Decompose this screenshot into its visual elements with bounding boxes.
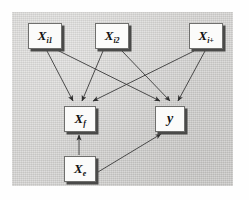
edge-xip-to-xf xyxy=(93,51,194,101)
node-xe-label: Xe xyxy=(74,160,86,177)
node-xe[interactable]: Xe xyxy=(64,156,96,182)
node-y-label: y xyxy=(167,110,173,127)
node-xi1-label: Xi1 xyxy=(38,27,52,44)
node-xip-label: Xi+ xyxy=(199,27,214,44)
edge-xip-to-y xyxy=(178,51,205,101)
node-xip[interactable]: Xi+ xyxy=(189,23,223,49)
path-diagram-figure: Xi1 Xi2 Xi+ Xf y Xe xyxy=(0,0,249,200)
node-xi2-label: Xi2 xyxy=(105,27,119,44)
node-xi2[interactable]: Xi2 xyxy=(95,23,129,49)
node-xi1[interactable]: Xi1 xyxy=(28,23,62,49)
node-xf[interactable]: Xf xyxy=(64,106,96,132)
edge-xi2-to-y xyxy=(122,51,170,101)
node-xf-label: Xf xyxy=(74,110,85,127)
edge-xe-to-y xyxy=(98,134,161,172)
edge-xi1-to-xf xyxy=(47,51,73,101)
node-y[interactable]: y xyxy=(155,106,185,132)
edge-xi2-to-xf xyxy=(82,51,103,101)
